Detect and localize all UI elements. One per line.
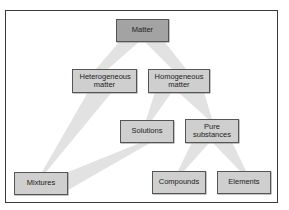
node-solutions-label: Solutions xyxy=(132,127,163,136)
edge-matter-heterogeneous xyxy=(96,41,140,69)
node-matter-label: Matter xyxy=(132,26,153,35)
node-solutions: Solutions xyxy=(120,120,174,143)
node-homogeneous-label: Homogeneous matter xyxy=(154,73,204,90)
node-homogeneous-matter: Homogeneous matter xyxy=(148,69,210,93)
node-mixtures: Mixtures xyxy=(14,172,68,195)
node-elements-label: Elements xyxy=(228,178,259,187)
edge-pure-elements xyxy=(212,142,246,171)
edge-matter-homogeneous xyxy=(144,41,186,69)
node-pure-substances-label: Pure substances xyxy=(192,123,232,140)
edge-homogeneous-pure xyxy=(178,92,212,119)
node-heterogeneous-matter: Heterogeneous matter xyxy=(72,69,137,93)
edge-solutions-mixtures xyxy=(68,143,150,190)
node-pure-substances: Pure substances xyxy=(185,119,239,143)
node-elements: Elements xyxy=(217,171,271,194)
node-heterogeneous-label: Heterogeneous matter xyxy=(80,73,130,90)
node-compounds-label: Compounds xyxy=(159,178,199,187)
node-mixtures-label: Mixtures xyxy=(27,179,55,188)
node-compounds: Compounds xyxy=(152,171,206,194)
node-matter: Matter xyxy=(116,19,169,42)
edge-homogeneous-solutions xyxy=(146,92,172,120)
edge-pure-compounds xyxy=(178,142,210,171)
